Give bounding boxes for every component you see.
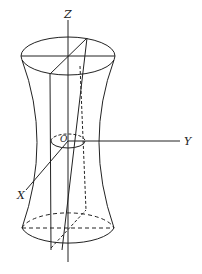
y-axis-label: Y	[184, 135, 193, 148]
hyperboloid-diagram: Z Y X O	[0, 0, 202, 274]
generating-line-back	[80, 66, 86, 210]
diagram-svg: Z Y X O	[0, 0, 202, 274]
left-hyperbola	[22, 60, 37, 228]
generating-line-front	[50, 74, 51, 250]
x-axis	[26, 141, 68, 190]
origin-label: O	[60, 134, 68, 144]
z-axis-label: Z	[63, 8, 72, 21]
right-hyperbola	[99, 60, 114, 228]
x-axis-label: X	[16, 189, 26, 202]
